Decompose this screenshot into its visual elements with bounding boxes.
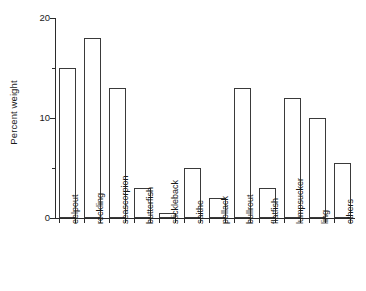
y-tick-label: 0 xyxy=(30,213,50,223)
bar xyxy=(309,118,326,218)
y-axis-tick-labels: 01020 xyxy=(27,0,50,291)
x-tick-label-text: ling xyxy=(321,210,330,224)
x-tick-label-text: stickleback xyxy=(171,180,180,224)
x-axis-tick-labels: eelpoutrocklingseascorpionbutterfishstic… xyxy=(55,224,355,291)
x-tick xyxy=(284,219,285,223)
x-tick xyxy=(234,219,235,223)
y-axis-title-text: Percent weight xyxy=(8,80,19,144)
x-tick-label-text: eelpout xyxy=(71,194,80,224)
x-tick-label-text: butterfish xyxy=(146,187,155,224)
x-tick xyxy=(334,219,335,223)
x-tick xyxy=(109,219,110,223)
x-tick xyxy=(84,219,85,223)
y-axis-title: Percent weight xyxy=(0,0,26,225)
y-tick-label: 10 xyxy=(30,113,50,123)
bar-series xyxy=(55,18,355,219)
bar-chart-figure: Percent weight 01020 eelpoutrocklingseas… xyxy=(0,0,366,291)
plot-area xyxy=(55,18,355,218)
x-tick-label-text: saithe xyxy=(196,200,205,224)
x-tick-label-text: bullrout xyxy=(246,194,255,224)
x-tick-label-text: pollack xyxy=(221,196,230,224)
x-tick-label-text: seascorpion xyxy=(121,175,130,224)
x-tick xyxy=(209,219,210,223)
x-tick xyxy=(184,219,185,223)
x-tick-label-text: flatfish xyxy=(271,198,280,224)
x-tick xyxy=(309,219,310,223)
x-tick xyxy=(59,219,60,223)
bar xyxy=(84,38,101,218)
x-tick xyxy=(259,219,260,223)
x-tick-label-text: others xyxy=(346,199,355,224)
x-tick-label-text: rockling xyxy=(96,193,105,224)
x-tick-label-text: lumpsucker xyxy=(296,178,305,224)
x-tick xyxy=(134,219,135,223)
y-tick-label: 20 xyxy=(30,13,50,23)
x-tick xyxy=(159,219,160,223)
